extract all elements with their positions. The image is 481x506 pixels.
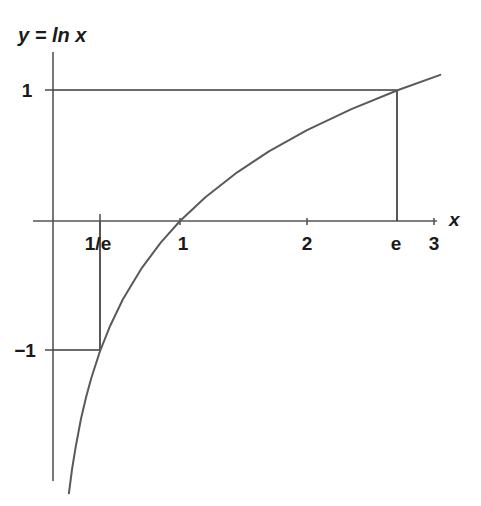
chart-canvas: y = ln x x 1 −1 1/e 1 2 e 3 bbox=[0, 0, 481, 506]
x-axis-label: x bbox=[448, 209, 461, 230]
logarithm-graph-figure: y = ln x x 1 −1 1/e 1 2 e 3 bbox=[0, 0, 481, 506]
x-tick-label-two: 2 bbox=[302, 233, 313, 254]
x-tick-label-three: 3 bbox=[429, 233, 440, 254]
x-tick-label-one: 1 bbox=[178, 233, 189, 254]
x-tick-label-inv-e: 1/e bbox=[85, 233, 111, 254]
chart-background bbox=[0, 0, 481, 506]
y-tick-label-minus-one: −1 bbox=[14, 340, 36, 361]
y-tick-label-one: 1 bbox=[22, 80, 33, 101]
function-label: y = ln x bbox=[17, 24, 87, 46]
x-tick-label-e: e bbox=[391, 233, 402, 254]
